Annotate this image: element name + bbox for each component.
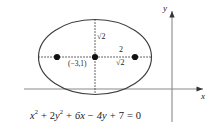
ellipse-figure: y x √2 (−3,1) 2 √2 x2+2y2+6x−4y+7=0 — [0, 0, 214, 139]
y-axis-label: y — [163, 4, 167, 13]
equation-term-1-exponent: 2 — [35, 108, 38, 115]
focus-left-point — [54, 54, 60, 60]
equation-term-3: 6x — [75, 110, 85, 121]
center-point — [92, 54, 98, 60]
equation-right-hand-side: 0 — [136, 110, 141, 121]
equation-equals-sign: = — [127, 110, 133, 121]
semi-minor-axis-label: √2 — [97, 33, 105, 41]
equation-term-5: 7 — [119, 110, 124, 121]
equation-term-2-exponent: 2 — [60, 108, 63, 115]
focus-distance-label: 2 — [119, 46, 123, 54]
x-axis-label: x — [201, 92, 205, 101]
coordinate-axes — [24, 11, 203, 122]
y-axis-arrowhead — [169, 11, 174, 18]
equation-term-4: 4y — [97, 110, 107, 121]
semi-major-axis-label: √2 — [116, 59, 124, 67]
equation-operator-3: − — [88, 110, 94, 121]
conic-equation: x2+2y2+6x−4y+7=0 — [30, 109, 141, 121]
equation-operator-1: + — [41, 110, 47, 121]
center-coordinates-label: (−3,1) — [68, 60, 87, 68]
equation-operator-4: + — [110, 110, 116, 121]
equation-operator-2: + — [66, 110, 72, 121]
focus-right-point — [132, 54, 138, 60]
